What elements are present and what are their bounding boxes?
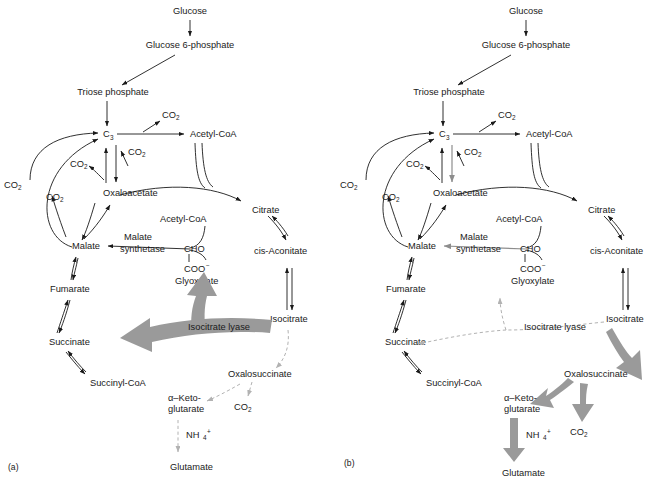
arrow-fumarate-to-succinate [59,300,70,333]
label-co2-right-of-c3-subscript: 2 [142,151,146,158]
node-acetyl-coa-mid: Acetyl-CoA [160,214,207,224]
a-isocitrate-lyase-highlight: Isocitrate lyase [120,272,272,352]
label-co2-top: CO [162,110,176,120]
node-citrate: Citrate [252,205,279,215]
panel-a-caption: (a) [8,462,19,472]
label-co2-far-left: CO [4,180,18,190]
label-co2-left-of-c3-subscript: 2 [84,163,88,170]
a-c3-to-acetylcoa: CO 2 Acetyl-CoA [117,110,237,139]
node-c3: C [103,129,110,139]
label-isocitrate-lyase: Isocitrate lyase [188,322,250,332]
label-malate-synthetase-line1: Malate [124,232,152,242]
label-co2-far-left-subscript: 2 [18,184,22,191]
dashed-arrow-oxalosuccinate-to-akg [207,384,240,401]
label-nh4: NH [186,430,199,440]
label-co2-top-subscript: 2 [176,114,180,121]
label-co2-mid-left-subscript: 2 [60,196,64,203]
label-co2-bottom: CO [234,402,248,412]
node-glutamate: Glutamate [170,462,213,472]
label-coo-superscript: − [206,262,210,269]
node-cis-aconitate: cis-Aconitate [254,246,307,256]
node-fumarate: Fumarate [50,284,90,294]
node-alpha-ketoglutarate-line1: α–Keto- [168,393,201,403]
a-oaa-malate-pair: Malate [72,203,110,251]
node-isocitrate: Isocitrate [270,314,308,324]
label-co2-bottom-subscript: 2 [248,406,252,413]
line-acetylcoa-down-1 [195,143,205,188]
node-c3-subscript: 3 [110,134,114,141]
label-nh4-subscript: 4 [203,434,207,441]
a-faded-idh-branch: Oxalosuccinate CO 2 α–Keto- glutarate NH… [168,330,292,472]
label-nh4-superscript: + [207,428,211,435]
arrow-co2-fix-into-c3 [121,151,128,166]
node-oxaloacetate: Oxaloacetate [103,188,158,198]
label-co2-mid-left: CO [46,192,60,202]
arrow-co2-release-top [143,121,160,132]
arrow-succinate-to-succinylcoa [66,352,85,374]
a-glycolysis-chain: Glucose Glucose 6-phosphate Triose phosp… [77,6,234,126]
dashed-arrow-isocitrate-to-oxalosuccinate [276,330,288,368]
node-oxalosuccinate: Oxalosuccinate [228,369,292,379]
label-malate-synthetase-line2: synthetase [120,244,165,254]
a-c3-node: C 3 [103,129,114,141]
arrow-succinylcoa-to-succinate [68,351,86,372]
arrow-co2-loop-outer [30,133,98,180]
node-alpha-ketoglutarate-line2: glutarate [168,404,204,414]
arrow-co2-mid-left [52,196,66,237]
a-glyoxylate-structure: CHO COO − Glyoxylate [175,244,218,286]
label-co2-left-of-c3: CO [70,159,84,169]
node-succinate: Succinate [49,337,90,347]
node-glucose: Glucose [173,6,207,16]
arrow-malate-to-fumarate [73,258,78,280]
label-cho: CHO [184,244,205,254]
arrow-co2-release-left [89,166,104,180]
figure-root: Glucose Glucose 6-phosphate Triose phosp… [0,0,672,484]
a-co2-anaplerotic-loops: CO 2 CO 2 [4,133,98,247]
node-triose-phosphate: Triose phosphate [77,87,149,97]
panel-a: Glucose Glucose 6-phosphate Triose phosp… [0,0,672,484]
arrow-succinate-to-fumarate [57,300,68,333]
label-coo: COO [184,264,205,274]
node-malate: Malate [72,241,100,251]
arrow-citrate-to-cisaconitate [272,216,288,236]
node-glucose-6-phosphate: Glucose 6-phosphate [146,40,234,50]
node-acetyl-coa-top: Acetyl-CoA [190,129,237,139]
label-co2-right-of-c3: CO [128,147,142,157]
arrow-g6p-to-triose [122,55,175,85]
dashed-arrow-co2-release-bottom [248,382,252,396]
arrow-cisaconitate-to-citrate [268,216,286,240]
a-tca-left-arm: Fumarate Succinate Succinyl-CoA [49,257,147,388]
node-succinyl-coa: Succinyl-CoA [90,378,147,388]
arrow-malate-to-oaa [84,205,110,239]
line-acetylcoa-down-2 [202,143,213,187]
